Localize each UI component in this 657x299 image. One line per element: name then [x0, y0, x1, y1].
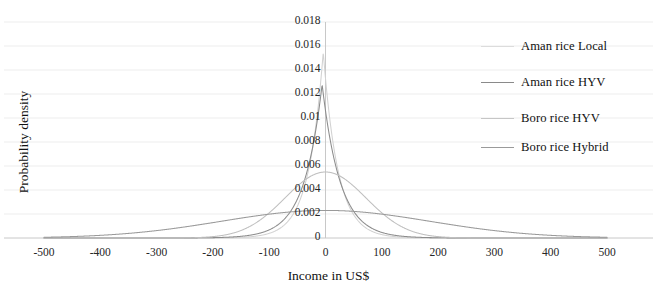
legend-swatch-icon [481, 46, 514, 47]
y-tick-label: 0.008 [295, 134, 321, 146]
y-tick-label: 0 [315, 230, 321, 242]
legend-label: Boro rice Hybrid [521, 140, 609, 155]
y-tick-label: 0.012 [295, 86, 321, 98]
x-tick-label: 400 [521, 246, 581, 258]
legend-label: Aman rice HYV [521, 75, 606, 90]
y-tick-label: 0.004 [295, 182, 321, 194]
x-axis-title: Income in US$ [0, 268, 657, 284]
y-tick-label: 0.014 [295, 62, 321, 74]
x-tick-label: 500 [577, 246, 637, 258]
x-tick-label: -500 [14, 246, 74, 258]
x-tick-label: -200 [183, 246, 243, 258]
x-tick-label: 100 [352, 246, 412, 258]
legend-item: Boro rice Hybrid [481, 140, 609, 155]
probability-density-chart: 00.0020.0040.0060.0080.010.0120.0140.016… [0, 0, 657, 299]
y-axis-title: Probability density [16, 52, 32, 232]
legend-label: Aman rice Local [521, 39, 607, 54]
x-tick-label: -400 [70, 246, 130, 258]
y-tick-label: 0.018 [295, 14, 321, 26]
legend-swatch-icon [481, 147, 514, 148]
legend-swatch-icon [481, 118, 514, 119]
x-tick-label: -300 [127, 246, 187, 258]
x-tick-label: 0 [296, 246, 356, 258]
y-tick-label: 0.016 [295, 38, 321, 50]
legend-swatch-icon [481, 82, 514, 83]
x-tick-label: 300 [464, 246, 524, 258]
legend-label: Boro rice HYV [521, 111, 600, 126]
x-tick-label: 200 [408, 246, 468, 258]
y-tick-label: 0.002 [295, 206, 321, 218]
y-tick-label: 0.01 [300, 110, 320, 122]
legend-item: Boro rice HYV [481, 111, 600, 126]
legend-item: Aman rice Local [481, 39, 607, 54]
y-tick-label: 0.006 [295, 158, 321, 170]
legend-item: Aman rice HYV [481, 75, 606, 90]
x-tick-label: -100 [239, 246, 299, 258]
